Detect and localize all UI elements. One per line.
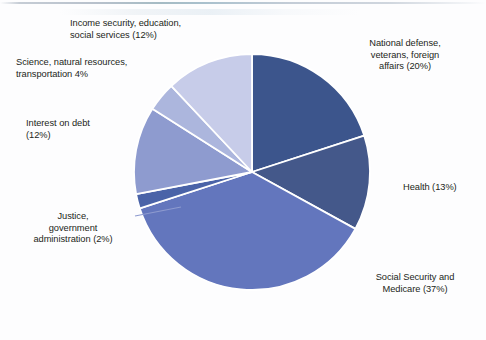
slice-label-science-natural-resources-transportation: Science, natural resources, transportati… <box>16 57 176 80</box>
slice-label-income-security: Income security, education, social servi… <box>70 18 234 41</box>
pie-slice-group <box>134 54 370 290</box>
pie-chart-figure: Income security, education, social servi… <box>0 0 486 340</box>
slice-label-interest-on-debt: Interest on debt (12%) <box>26 118 146 141</box>
slice-label-national-defense: National defense, veterans, foreign affa… <box>344 38 466 73</box>
slice-label-health: Health (13%) <box>403 182 483 194</box>
slice-label-social-security-and-medicare: Social Security and Medicare (37%) <box>357 272 473 295</box>
slice-label-justice-government-administration: Justice, government administration (2%) <box>14 211 132 246</box>
